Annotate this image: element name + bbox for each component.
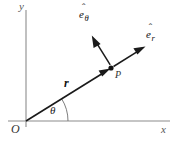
y-axis-label: y [19,1,24,12]
point-p-dot [108,65,113,70]
e-r-vector-line [114,51,139,67]
e-r-label: eˆr [146,29,155,42]
origin-label: O [11,123,20,135]
e-theta-hat-accent: ˆ [82,3,85,13]
x-axis-label: x [161,124,166,135]
e-theta-label: eˆθ [79,9,89,22]
point-p-label: P [115,70,121,80]
polar-coordinate-diagram: y x O θ r P eˆr eˆθ [0,0,177,142]
e-theta-subscript: θ [84,13,88,23]
e-theta-vector-line [96,42,110,64]
angle-arc [62,99,68,121]
angle-theta-label: θ [50,105,55,116]
radius-r-label: r [64,77,69,89]
e-r-hat-accent: ˆ [149,23,152,33]
e-r-subscript: r [151,33,154,43]
